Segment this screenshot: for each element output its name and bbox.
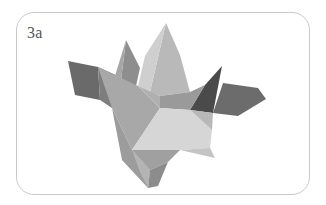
polyhedron-illustration [0, 0, 326, 205]
